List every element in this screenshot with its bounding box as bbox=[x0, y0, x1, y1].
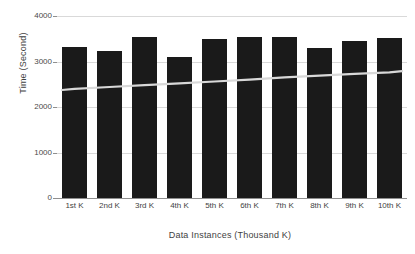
x-axis-tick-label: 10th K bbox=[372, 202, 407, 210]
bar-chart: Time (Second) 01000200030004000 1st K2nd… bbox=[0, 0, 415, 254]
x-axis-tick-label: 4th K bbox=[162, 202, 197, 210]
x-axis-tick-label: 3rd K bbox=[127, 202, 162, 210]
y-axis-tick-label: 0 bbox=[48, 194, 52, 202]
x-axis-title: Data Instances (Thousand K) bbox=[55, 230, 405, 240]
y-axis-tick-label: 3000 bbox=[34, 58, 52, 66]
x-axis-line bbox=[57, 198, 407, 199]
x-axis-tick-label: 7th K bbox=[267, 202, 302, 210]
x-axis-tick-label: 5th K bbox=[197, 202, 232, 210]
x-axis-tick-label: 6th K bbox=[232, 202, 267, 210]
y-axis-tick-label: 2000 bbox=[34, 103, 52, 111]
x-axis-tick-label: 8th K bbox=[302, 202, 337, 210]
x-axis-tick-label: 2nd K bbox=[92, 202, 127, 210]
y-axis-tick-label: 4000 bbox=[34, 12, 52, 20]
y-axis-title: Time (Second) bbox=[18, 0, 28, 128]
plot-area: 01000200030004000 1st K2nd K3rd K4th K5t… bbox=[57, 16, 407, 198]
x-axis-tick-labels: 1st K2nd K3rd K4th K5th K6th K7th K8th K… bbox=[57, 16, 407, 198]
x-axis-tick-label: 1st K bbox=[57, 202, 92, 210]
y-tick-mark bbox=[53, 198, 57, 199]
y-axis-tick-label: 1000 bbox=[34, 149, 52, 157]
x-axis-tick-label: 9th K bbox=[337, 202, 372, 210]
